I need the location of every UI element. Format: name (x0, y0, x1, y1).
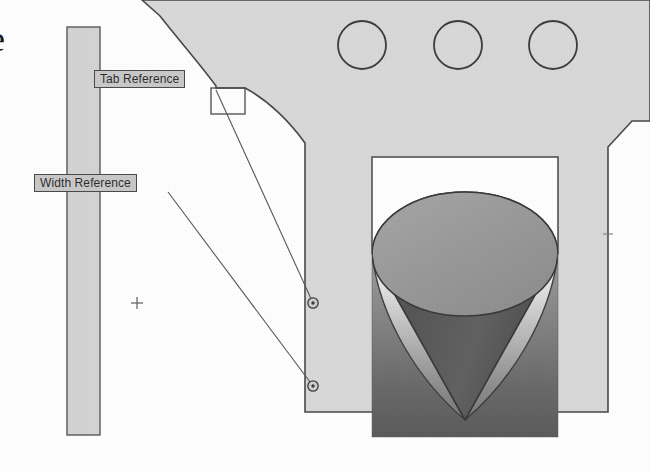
callout-tab-reference[interactable]: Tab Reference (94, 70, 185, 88)
leader-line-group (168, 90, 313, 386)
leader-endpoint-width-reference (308, 381, 318, 391)
callout-width-reference[interactable]: Width Reference (34, 174, 137, 192)
width-reference-strip[interactable] (67, 27, 100, 435)
leader-line-width-reference (168, 192, 313, 386)
leader-endpoint-tab-reference (308, 298, 318, 308)
tab-feature-rectangle[interactable] (211, 88, 245, 114)
shaded-cone-preview[interactable] (372, 157, 558, 437)
origin-crosshair (131, 297, 143, 309)
cone-top-ellipse (372, 192, 558, 316)
cad-drawing-canvas: e (0, 0, 650, 471)
